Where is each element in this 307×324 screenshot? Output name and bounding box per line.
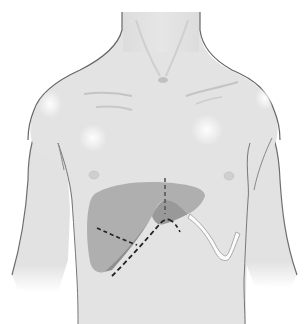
neck bbox=[123, 12, 199, 52]
right-nipple bbox=[89, 171, 99, 179]
torso bbox=[30, 12, 277, 324]
right-shoulder-highlight bbox=[38, 90, 62, 118]
right-chest-highlight bbox=[79, 124, 107, 152]
left-nipple bbox=[224, 172, 234, 180]
left-chest-highlight bbox=[191, 114, 223, 146]
suprasternal-notch bbox=[158, 77, 168, 83]
anatomical-illustration bbox=[0, 0, 307, 324]
torso-figure bbox=[0, 0, 307, 324]
left-shoulder-highlight bbox=[255, 86, 275, 110]
